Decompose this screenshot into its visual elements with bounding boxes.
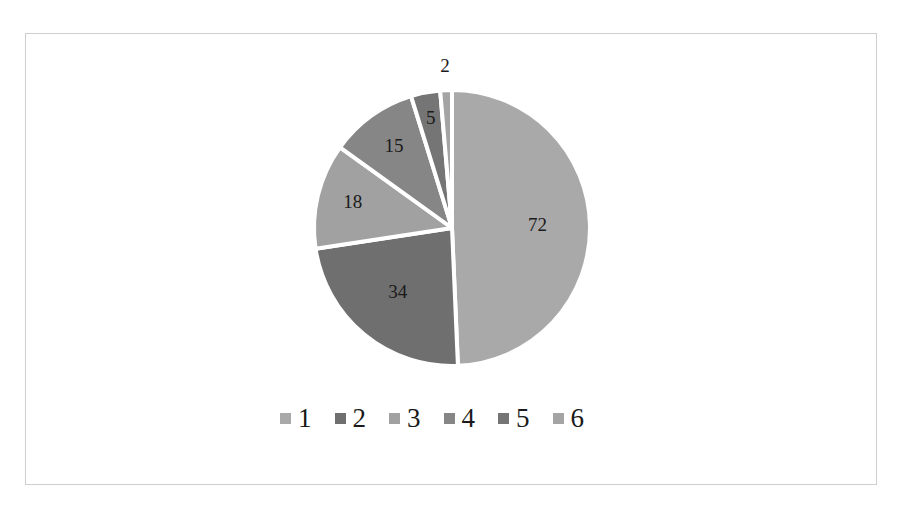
legend-item-6: 6 (553, 403, 585, 433)
legend-label: 1 (298, 403, 312, 433)
data-label-6: 2 (440, 55, 450, 76)
legend-swatch-icon (389, 413, 400, 424)
legend-label: 4 (462, 403, 476, 433)
data-label-5: 5 (426, 107, 436, 128)
legend-swatch-icon (553, 413, 564, 424)
legend-swatch-icon (498, 413, 509, 424)
legend-item-4: 4 (444, 403, 476, 433)
legend-item-3: 3 (389, 403, 421, 433)
data-label-1: 72 (528, 214, 547, 235)
legend-item-5: 5 (498, 403, 530, 433)
pie-slice-1 (452, 90, 590, 366)
legend-item-1: 1 (280, 403, 312, 433)
chart-legend: 1 2 3 4 5 6 (280, 398, 607, 438)
legend-label: 6 (571, 403, 585, 433)
legend-item-2: 2 (335, 403, 367, 433)
pie-chart: 7234181552 (0, 0, 905, 518)
data-label-2: 34 (388, 281, 408, 302)
legend-swatch-icon (280, 413, 291, 424)
pie-slices (314, 90, 590, 366)
legend-label: 2 (353, 403, 367, 433)
pie-slice-2 (316, 228, 458, 366)
legend-swatch-icon (335, 413, 346, 424)
legend-label: 3 (407, 403, 421, 433)
legend-swatch-icon (444, 413, 455, 424)
data-label-4: 15 (384, 135, 403, 156)
data-label-3: 18 (343, 191, 362, 212)
legend-label: 5 (516, 403, 530, 433)
